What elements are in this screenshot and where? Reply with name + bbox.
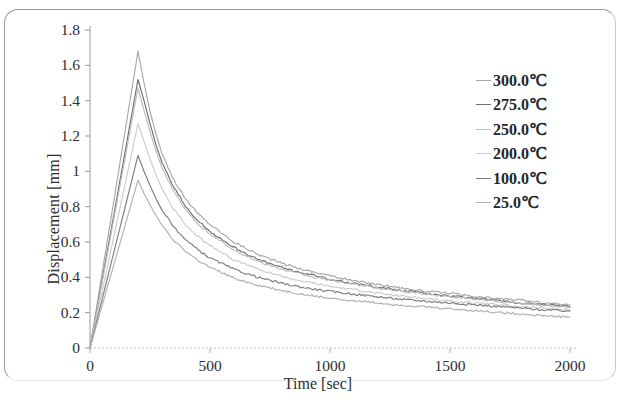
legend-item[interactable]: 300.0℃ [476,68,616,93]
x-tick-label: 500 [180,358,240,374]
x-tick-label: 0 [60,358,120,374]
legend-item[interactable]: 200.0℃ [476,142,616,167]
legend-label: 25.0℃ [493,193,539,212]
x-tick-label: 1000 [300,358,360,374]
x-axis-title: Time [sec] [228,375,408,393]
legend-label: 250.0℃ [493,120,547,139]
y-axis-title: Displacement [mm] [45,119,63,319]
legend-line-swatch [476,178,491,179]
y-axis-title-wrap: Displacement [mm] [22,60,23,61]
x-tick-label: 1500 [420,358,480,374]
legend-item[interactable]: 25.0℃ [476,191,616,216]
legend-item[interactable]: 100.0℃ [476,166,616,191]
legend-label: 100.0℃ [493,169,547,188]
legend-line-swatch [476,129,491,130]
legend-label: 275.0℃ [493,95,547,114]
legend-line-swatch [476,202,491,203]
legend-label: 200.0℃ [493,144,547,163]
legend-line-swatch [476,80,491,81]
legend-label: 300.0℃ [493,71,547,90]
legend-item[interactable]: 250.0℃ [476,117,616,142]
legend-line-swatch [476,104,491,105]
x-tick-label: 2000 [540,358,600,374]
legend-line-swatch [476,153,491,154]
legend: 300.0℃275.0℃250.0℃200.0℃100.0℃25.0℃ [476,68,616,215]
legend-item[interactable]: 275.0℃ [476,93,616,118]
